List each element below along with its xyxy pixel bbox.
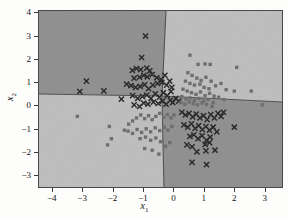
data-point-square (217, 96, 220, 99)
data-point-square (196, 103, 199, 106)
y-tick-label: 4 (8, 7, 31, 17)
data-point-cross (155, 81, 160, 86)
data-point-cross (119, 97, 124, 102)
data-point-cross (141, 100, 146, 105)
data-point-square (224, 88, 227, 91)
data-point-square (163, 126, 166, 129)
x-axis-label-subscript: 1 (145, 206, 149, 214)
y-tick-mark (34, 152, 38, 153)
data-point-square (169, 116, 172, 119)
data-point-square (147, 114, 150, 117)
data-point-cross (189, 144, 194, 149)
data-point-square (211, 101, 214, 104)
data-point-square (195, 76, 198, 79)
y-tick-label: −1 (8, 124, 31, 134)
data-point-square (196, 63, 199, 66)
data-point-square (189, 96, 192, 99)
data-point-square (209, 79, 212, 82)
x-tick-mark (113, 188, 114, 192)
data-point-square (131, 132, 134, 135)
data-point-square (131, 119, 134, 122)
data-point-square (135, 116, 138, 119)
data-point-square (183, 102, 186, 105)
data-point-cross (232, 125, 237, 130)
data-point-square (186, 71, 189, 74)
y-axis-label: x2 (4, 82, 18, 112)
data-point-cross (139, 55, 144, 60)
data-point-cross (143, 34, 148, 39)
data-point-square (207, 87, 210, 90)
data-point-square (203, 62, 206, 65)
y-axis-label-subscript: 2 (10, 93, 18, 97)
data-point-square (199, 79, 202, 82)
data-point-cross (162, 73, 167, 78)
data-point-square (233, 89, 236, 92)
data-point-square (149, 130, 152, 133)
data-point-square (106, 143, 109, 146)
data-point-square (108, 125, 111, 128)
x-axis-label: x1 (0, 200, 289, 214)
data-point-square (179, 101, 182, 104)
data-point-square (186, 89, 189, 92)
data-point-square (127, 123, 130, 126)
data-point-square (151, 149, 154, 152)
data-point-square (193, 83, 196, 86)
data-point-square (138, 137, 141, 140)
data-point-square (143, 117, 146, 120)
data-point-cross (212, 148, 217, 153)
data-point-square (199, 90, 202, 93)
x-tick-mark (234, 188, 235, 192)
x-tick-mark (173, 188, 174, 192)
data-point-square (123, 128, 126, 131)
data-point-square (212, 94, 215, 97)
data-point-square (197, 97, 200, 100)
data-point-cross (145, 102, 150, 107)
y-tick-mark (34, 12, 38, 13)
data-point-cross (205, 117, 210, 122)
data-point-square (140, 131, 143, 134)
y-tick-label: 2 (8, 54, 31, 64)
data-point-square (166, 113, 169, 116)
data-point-square (250, 89, 253, 92)
series-class-1-cross (77, 34, 237, 168)
data-point-square (184, 97, 187, 100)
data-point-cross (214, 129, 219, 134)
data-point-square (180, 95, 183, 98)
data-point-square (158, 129, 161, 132)
data-point-square (143, 147, 146, 150)
data-point-square (200, 101, 203, 104)
data-point-square (214, 84, 217, 87)
data-point-cross (135, 96, 140, 101)
data-point-square (188, 53, 191, 56)
data-point-square (110, 137, 113, 140)
y-axis-label-text: x (4, 97, 15, 101)
data-point-square (261, 103, 264, 106)
data-point-square (168, 141, 171, 144)
data-point-cross (168, 89, 173, 94)
figure-container: −4−3−2−10123−3−2−101234 x1 x2 (0, 0, 289, 219)
plot-area (38, 10, 283, 188)
data-point-square (208, 92, 211, 95)
x-tick-mark (52, 188, 53, 192)
y-tick-label: −2 (8, 147, 31, 157)
data-point-cross (77, 89, 82, 94)
data-point-square (193, 99, 196, 102)
data-point-square (157, 152, 160, 155)
data-point-cross (84, 79, 89, 84)
data-point-square (158, 112, 161, 115)
data-point-cross (150, 83, 155, 88)
data-point-square (126, 129, 129, 132)
data-point-square (170, 125, 173, 128)
data-point-square (235, 66, 238, 69)
data-point-square (206, 98, 209, 101)
data-point-square (222, 98, 225, 101)
data-point-square (198, 82, 201, 85)
data-point-square (144, 127, 147, 130)
y-tick-label: 3 (8, 31, 31, 41)
data-point-cross (204, 162, 209, 167)
data-point-cross (138, 67, 143, 72)
y-tick-mark (34, 175, 38, 176)
data-point-square (188, 82, 191, 85)
data-point-square (144, 135, 147, 138)
y-tick-label: −3 (8, 170, 31, 180)
